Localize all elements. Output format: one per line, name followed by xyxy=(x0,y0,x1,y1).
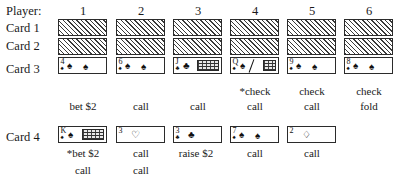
poker-hand-diagram: Player: Card 1 Card 2 Card 3 Card 4 1 2 … xyxy=(0,0,394,182)
third-street-action-p6-line2: fold xyxy=(341,100,394,113)
card-suit-pip-icon: ♠ xyxy=(240,61,245,71)
fourth-street-action-p3-line1: raise $2 xyxy=(168,147,224,160)
third-street-action-p1-line2: bet $2 xyxy=(55,100,111,113)
card-2-player-2 xyxy=(116,38,165,55)
card-3-player-6: 8 ♠ ♠ ♠ xyxy=(344,57,393,74)
card-suit-pip-icon: ♣ xyxy=(183,61,190,71)
third-street-action-p4-line1: *check xyxy=(227,85,283,98)
card-3-player-3: J ♣ ♣ xyxy=(173,57,222,74)
third-street-action-p5-line2: call xyxy=(284,100,340,113)
card-suit-pip-icon: ♠ xyxy=(369,62,374,72)
card-3-player-2: 6 ♠ ♠ ♠ xyxy=(116,57,165,74)
card-1-player-3 xyxy=(173,19,222,36)
third-street-action-p6-line1: check xyxy=(341,85,394,98)
card-2-row-label: Card 2 xyxy=(6,39,56,53)
card-3-player-4: Q ♠ ♠ xyxy=(230,57,279,74)
third-street-action-p5-line1: check xyxy=(284,85,340,98)
player-number-6: 6 xyxy=(341,4,394,18)
card-2-player-3 xyxy=(173,38,222,55)
card-suit-pip-icon: ♠ xyxy=(141,62,146,72)
card-suit-pip-icon: ♠ xyxy=(255,131,260,141)
card-3-row-label: Card 3 xyxy=(6,62,56,76)
card-mini-suit-icon: ♠ xyxy=(61,134,64,140)
third-street-action-p3-line2: call xyxy=(170,100,226,113)
card-4-player-5: 2 ♢ xyxy=(287,126,336,143)
card-mini-suit-icon: ♠ xyxy=(290,65,293,71)
card-1-row-label: Card 1 xyxy=(6,21,56,35)
player-header-label: Player: xyxy=(6,4,56,18)
player-number-5: 5 xyxy=(284,4,340,18)
card-suit-pip-icon: ♠ xyxy=(125,61,130,71)
card-4-player-2: 3 ♡ xyxy=(116,126,165,143)
fourth-street-action-p4-line1: call xyxy=(227,147,283,160)
card-mini-suit-icon: ♠ xyxy=(233,134,236,140)
card-rank: 2 xyxy=(290,127,294,135)
fourth-street-action-p1-line1: *bet $2 xyxy=(55,147,111,160)
card-mini-suit-icon: ♠ xyxy=(119,65,122,71)
card-mini-suit-icon: ♣ xyxy=(176,65,180,71)
card-4-player-3: 3 ♣ ♣ xyxy=(173,126,222,143)
card-1-player-5 xyxy=(287,19,336,36)
card-2-player-6 xyxy=(344,38,393,55)
face-card-portrait-icon xyxy=(263,60,276,71)
card-suit-pip-icon: ♣ xyxy=(188,130,195,140)
card-mini-suit-icon: ♠ xyxy=(347,65,350,71)
card-3-player-1: 4 ♠ ♠ ♠ xyxy=(58,57,107,74)
fourth-street-action-p2-line2: call xyxy=(113,164,169,177)
fourth-street-action-p1-line2: call xyxy=(55,164,111,177)
fourth-street-action-p2-line1: call xyxy=(113,147,169,160)
third-street-action-p2-line2: call xyxy=(113,100,169,113)
card-suit-pip-icon: ♠ xyxy=(68,130,73,140)
card-suit-pip-icon: ♠ xyxy=(83,62,88,72)
card-2-player-4 xyxy=(230,38,279,55)
third-street-action-p4-line2: call xyxy=(227,100,283,113)
card-1-player-4 xyxy=(230,19,279,36)
card-rank: 3 xyxy=(119,127,123,135)
card-suit-pip-icon: ♠ xyxy=(353,61,358,71)
card-4-player-4: 7 ♠ ♠ ♠ xyxy=(230,126,279,143)
card-mini-suit-icon: ♣ xyxy=(176,134,180,140)
card-4-row-label: Card 4 xyxy=(6,130,56,144)
card-1-player-2 xyxy=(116,19,165,36)
player-number-2: 2 xyxy=(113,4,169,18)
card-2-player-5 xyxy=(287,38,336,55)
player-number-1: 1 xyxy=(55,4,111,18)
card-suit-pip-icon: ♢ xyxy=(302,130,311,140)
face-card-slash-icon xyxy=(249,59,255,73)
card-1-player-1 xyxy=(58,19,107,36)
face-card-portrait-icon xyxy=(82,129,104,140)
card-suit-pip-icon: ♠ xyxy=(296,61,301,71)
card-suit-pip-icon: ♡ xyxy=(131,130,140,140)
card-mini-suit-icon: ♠ xyxy=(233,65,236,71)
card-2-player-1 xyxy=(58,38,107,55)
card-3-player-5: 9 ♠ ♠ ♠ xyxy=(287,57,336,74)
card-1-player-6 xyxy=(344,19,393,36)
player-number-3: 3 xyxy=(170,4,226,18)
fourth-street-action-p5-line1: call xyxy=(284,147,340,160)
card-mini-suit-icon: ♠ xyxy=(61,65,64,71)
card-4-player-1: K ♠ ♠ xyxy=(58,126,107,143)
face-card-portrait-icon xyxy=(197,60,219,71)
card-suit-pip-icon: ♠ xyxy=(239,130,244,140)
card-suit-pip-icon: ♠ xyxy=(312,62,317,72)
player-number-4: 4 xyxy=(227,4,283,18)
card-suit-pip-icon: ♠ xyxy=(67,61,72,71)
